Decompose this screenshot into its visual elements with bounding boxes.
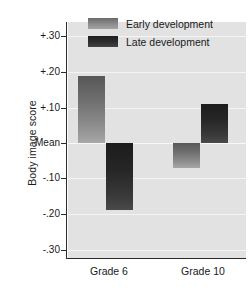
y-tick-label-plus-20: +.20: [14, 66, 60, 77]
gridline-minus-20: [68, 214, 246, 215]
bar-grade6-late: [106, 143, 133, 210]
x-axis-line: [66, 258, 246, 259]
gridline-minus-10: [68, 178, 246, 179]
chart-figure: Body image score +.30 +.20 +.10 Mean -.1…: [0, 0, 252, 290]
y-axis-line: [66, 22, 67, 258]
y-tick-label-plus-30: +.30: [14, 30, 60, 41]
x-tick-label-grade-6: Grade 6: [74, 265, 144, 277]
y-tick-label-mean: Mean: [14, 137, 60, 148]
legend-label-late: Late development: [126, 36, 209, 48]
legend-item-early: Early development: [88, 16, 213, 31]
y-tick-minus-30: [61, 250, 66, 251]
gridline-minus-30: [68, 250, 246, 251]
x-tick-label-grade-10: Grade 10: [168, 265, 238, 277]
y-tick-minus-10: [61, 178, 66, 179]
y-tick-plus-10: [61, 108, 66, 109]
legend-label-early: Early development: [126, 18, 213, 30]
legend-swatch-late-icon: [88, 36, 118, 47]
gridline-mean: [68, 143, 246, 144]
y-tick-label-minus-20: -.20: [14, 208, 60, 219]
legend-item-late: Late development: [88, 34, 213, 49]
bar-grade6-early: [78, 76, 105, 143]
bar-grade10-late: [201, 104, 228, 143]
y-tick-plus-20: [61, 72, 66, 73]
y-tick-plus-30: [61, 36, 66, 37]
y-tick-labels: +.30 +.20 +.10 Mean -.10 -.20 -.30: [8, 0, 60, 290]
legend-swatch-early-icon: [88, 18, 118, 29]
gridline-plus-20: [68, 72, 246, 73]
plot-area: [68, 22, 246, 258]
bar-grade10-early: [173, 143, 200, 168]
chart-legend: Early development Late development: [88, 16, 213, 52]
y-tick-label-plus-10: +.10: [14, 102, 60, 113]
y-tick-minus-20: [61, 214, 66, 215]
y-tick-label-minus-10: -.10: [14, 172, 60, 183]
y-tick-label-minus-30: -.30: [14, 244, 60, 255]
y-tick-mean: [61, 143, 66, 144]
